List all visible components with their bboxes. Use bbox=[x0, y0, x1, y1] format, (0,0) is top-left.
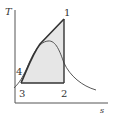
point-label-2: 2 bbox=[61, 88, 67, 99]
point-label-1: 1 bbox=[64, 7, 70, 18]
cycle-area bbox=[21, 19, 64, 83]
ts-diagram: T s 1 2 3 4 bbox=[0, 0, 117, 118]
x-axis-label: s bbox=[100, 106, 104, 115]
y-axis-label: T bbox=[5, 6, 13, 17]
point-label-3: 3 bbox=[19, 88, 25, 99]
point-label-4: 4 bbox=[16, 66, 22, 77]
